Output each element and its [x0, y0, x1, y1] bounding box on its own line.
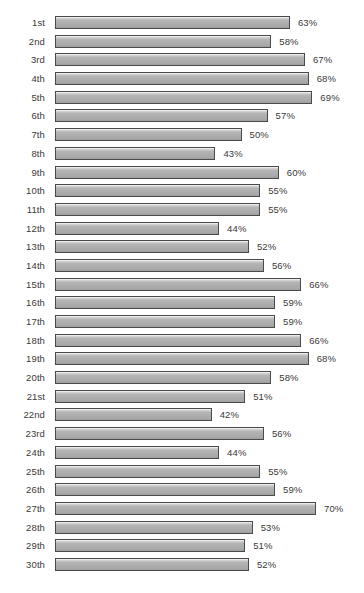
bar-track: 58%	[55, 35, 364, 48]
bar-value-label: 52%	[257, 240, 276, 253]
bar	[55, 539, 245, 552]
category-label: 6th	[0, 108, 45, 123]
bar-track: 59%	[55, 483, 364, 496]
bar-row: 22nd42%	[0, 407, 364, 426]
bar-row: 16th59%	[0, 295, 364, 314]
bar	[55, 334, 301, 347]
bar-row: 14th56%	[0, 258, 364, 277]
bar-track: 60%	[55, 166, 364, 179]
category-label: 24th	[0, 445, 45, 460]
bar	[55, 203, 260, 216]
category-label: 18th	[0, 333, 45, 348]
bar-track: 44%	[55, 446, 364, 459]
bar	[55, 259, 264, 272]
bar-row: 25th55%	[0, 464, 364, 483]
bar-track: 52%	[55, 558, 364, 571]
bar-value-label: 55%	[268, 465, 287, 478]
bar-row: 12th44%	[0, 221, 364, 240]
category-label: 29th	[0, 538, 45, 553]
bar-row: 1st63%	[0, 15, 364, 34]
bar-value-label: 44%	[227, 446, 246, 459]
bar-value-label: 69%	[320, 91, 339, 104]
bar-value-label: 57%	[276, 109, 295, 122]
horizontal-bar-chart: 1st63%2nd58%3rd67%4th68%5th69%6th57%7th5…	[0, 0, 364, 593]
bar	[55, 315, 275, 328]
bar-track: 67%	[55, 53, 364, 66]
category-label: 10th	[0, 183, 45, 198]
bar	[55, 427, 264, 440]
bar	[55, 465, 260, 478]
bar	[55, 16, 290, 29]
bar-row: 26th59%	[0, 482, 364, 501]
bar-track: 57%	[55, 109, 364, 122]
bar-value-label: 50%	[250, 128, 269, 141]
bar-row: 8th43%	[0, 146, 364, 165]
bar-track: 44%	[55, 222, 364, 235]
bar-track: 59%	[55, 296, 364, 309]
bar-value-label: 66%	[309, 334, 328, 347]
bar-row: 13th52%	[0, 239, 364, 258]
category-label: 17th	[0, 314, 45, 329]
bar	[55, 296, 275, 309]
bar-row: 24th44%	[0, 445, 364, 464]
category-label: 25th	[0, 464, 45, 479]
category-label: 7th	[0, 127, 45, 142]
category-label: 21st	[0, 389, 45, 404]
bar	[55, 483, 275, 496]
bar-track: 68%	[55, 352, 364, 365]
bar-value-label: 55%	[268, 203, 287, 216]
bar-track: 68%	[55, 72, 364, 85]
bar-value-label: 68%	[317, 352, 336, 365]
bar-row: 10th55%	[0, 183, 364, 202]
bar-value-label: 42%	[220, 408, 239, 421]
bar	[55, 446, 219, 459]
bar-row: 28th53%	[0, 520, 364, 539]
category-label: 1st	[0, 15, 45, 30]
bar-value-label: 52%	[257, 558, 276, 571]
bar	[55, 371, 271, 384]
bar-track: 51%	[55, 390, 364, 403]
bar-row: 23rd56%	[0, 426, 364, 445]
category-label: 2nd	[0, 34, 45, 49]
bar-track: 53%	[55, 521, 364, 534]
bar-row: 4th68%	[0, 71, 364, 90]
bar-row: 17th59%	[0, 314, 364, 333]
bar-value-label: 60%	[287, 166, 306, 179]
category-label: 22nd	[0, 407, 45, 422]
bar-value-label: 56%	[272, 259, 291, 272]
bar	[55, 166, 279, 179]
bar-row: 2nd58%	[0, 34, 364, 53]
bar-row: 11th55%	[0, 202, 364, 221]
bar-value-label: 67%	[313, 53, 332, 66]
bar	[55, 222, 219, 235]
bar-track: 52%	[55, 240, 364, 253]
bar-track: 56%	[55, 427, 364, 440]
bar-track: 66%	[55, 278, 364, 291]
bar	[55, 128, 242, 141]
bar-value-label: 51%	[253, 539, 272, 552]
category-label: 3rd	[0, 52, 45, 67]
bar-row: 3rd67%	[0, 52, 364, 71]
bar-track: 70%	[55, 502, 364, 515]
bar	[55, 184, 260, 197]
bar-row: 18th66%	[0, 333, 364, 352]
category-label: 4th	[0, 71, 45, 86]
category-label: 8th	[0, 146, 45, 161]
bar-track: 55%	[55, 465, 364, 478]
bar-track: 42%	[55, 408, 364, 421]
bar-row: 19th68%	[0, 351, 364, 370]
bar-value-label: 63%	[298, 16, 317, 29]
bar-track: 51%	[55, 539, 364, 552]
bar-row: 15th66%	[0, 277, 364, 296]
bar-track: 56%	[55, 259, 364, 272]
category-label: 23rd	[0, 426, 45, 441]
category-label: 20th	[0, 370, 45, 385]
bar-value-label: 59%	[283, 296, 302, 309]
bar	[55, 72, 309, 85]
category-label: 28th	[0, 520, 45, 535]
chart-rows: 1st63%2nd58%3rd67%4th68%5th69%6th57%7th5…	[0, 15, 364, 576]
bar-row: 20th58%	[0, 370, 364, 389]
bar-track: 69%	[55, 91, 364, 104]
bar-value-label: 68%	[317, 72, 336, 85]
bar-track: 55%	[55, 184, 364, 197]
